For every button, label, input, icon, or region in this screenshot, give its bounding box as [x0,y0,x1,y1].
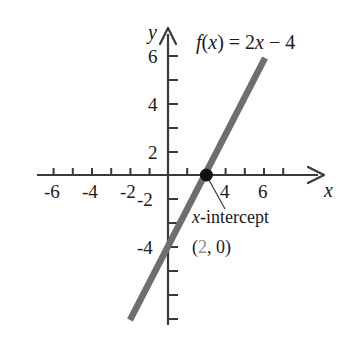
equation-paren-close: ) [217,31,224,53]
y-tick-label-neg2: -2 [137,190,153,209]
x-intercept-annotation-title: x-intercept [192,208,269,226]
y-tick-label-6: 6 [148,47,158,66]
point-x-value: 2 [198,237,207,257]
equation-equals-sign: = [229,31,240,53]
function-equation-label: f(x) = 2x − 4 [196,32,295,52]
point-separator: , [207,237,216,257]
x-intercept-dot [200,169,213,182]
equation-slope: 2 [245,31,255,53]
y-tick-label-4: 4 [148,95,158,114]
x-tick-label-6: 6 [258,182,268,201]
x-axis-label: x [324,180,333,200]
point-paren-close: ) [225,237,231,257]
y-tick-label-neg4: -4 [137,238,153,257]
x-tick-label-neg2: -2 [120,182,136,201]
x-tick-label-neg4: -4 [82,182,98,201]
equation-minus-sign: − [269,31,280,53]
equation-constant: 4 [285,31,295,53]
annotation-variable: x [192,207,200,227]
equation-variable: x [208,31,217,53]
equation-slope-variable: x [255,31,264,53]
y-axis-label: y [148,22,157,42]
x-tick-label-4: 4 [220,182,230,201]
y-axis-ticks [168,56,178,319]
x-intercept-annotation-point: (2, 0) [192,238,231,256]
y-tick-label-2: 2 [148,143,158,162]
graph-figure: -6 -4 -2 4 6 6 4 2 -2 -4 y x f(x) = 2x −… [0,0,346,338]
x-tick-label-neg6: -6 [44,182,60,201]
point-y-value: 0 [216,237,225,257]
annotation-title-text: -intercept [200,207,269,227]
